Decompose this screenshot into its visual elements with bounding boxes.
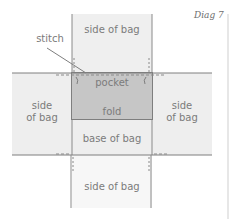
left-side-label: side of bag [12,100,72,124]
stitch-label: stitch [30,33,70,45]
top-side-label: side of bag [72,24,152,36]
right-side-label: side of bag [152,100,212,124]
fold-label: fold [72,106,152,118]
base-label: base of bag [72,133,152,145]
right-side-label-line2: of bag [152,112,212,124]
right-side-label-line1: side [152,100,212,112]
bottom-side-label: side of bag [72,181,152,193]
pocket-label: pocket [72,77,152,89]
left-side-label-line2: of bag [12,112,72,124]
left-side-label-line1: side [12,100,72,112]
diagram-caption: Diag 7 [194,10,224,20]
